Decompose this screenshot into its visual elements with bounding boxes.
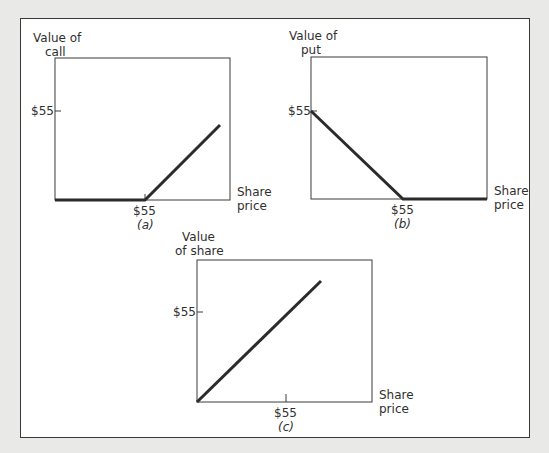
panel-caption: (c) [278,420,294,434]
x-axis-label-line2: price [379,402,409,416]
panel-caption: (b) [394,217,411,231]
put-payoff-line [311,111,487,199]
x-axis-label-line1: Share [237,185,272,199]
y-axis-label-line1: Value of [33,31,82,45]
x-tick-label: $55 [133,204,156,218]
panel-a-call: Value of call $55 $55 (a) Share price [31,31,272,232]
plot-box [55,58,230,200]
call-payoff-line [55,125,220,200]
y-axis-label-line1: Value of [289,29,338,43]
x-tick-label: $55 [274,406,297,420]
panel-b-put: Value of put $55 $55 (b) Share price [288,29,529,231]
y-axis-label-line2: call [45,45,66,59]
x-axis-label-line1: Share [379,388,414,402]
y-tick-label: $55 [31,104,54,118]
plot-box [197,260,372,402]
x-axis-label-line2: price [494,198,524,212]
panel-caption: (a) [137,218,154,232]
x-axis-label-line2: price [237,199,267,213]
option-payoff-figure: Value of call $55 $55 (a) Share price Va… [0,0,549,453]
x-tick-label: $55 [391,203,414,217]
x-axis-label-line1: Share [494,184,529,198]
share-value-line [197,281,321,402]
y-axis-label-line2: put [301,43,321,57]
plot-box [311,57,487,199]
y-axis-label-line2: of share [175,244,224,258]
y-tick-label: $55 [288,104,311,118]
y-axis-label-line1: Value [182,230,215,244]
y-tick-label: $55 [173,305,196,319]
panel-c-share: Value of share $55 $55 (c) Share price [173,230,414,434]
